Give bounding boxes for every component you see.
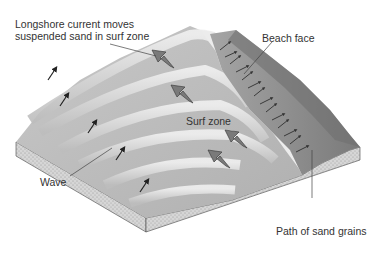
label-longshore-current-line2: suspended sand in surf zone — [15, 30, 149, 42]
label-surf-zone: Surf zone — [186, 115, 231, 127]
label-path-of-sand-grains: Path of sand grains — [276, 225, 366, 237]
beach-diagram: Longshore current moves suspended sand i… — [0, 0, 380, 257]
label-longshore-current-line1: Longshore current moves — [15, 18, 134, 30]
label-wave: Wave — [40, 176, 66, 188]
label-beach-face: Beach face — [262, 32, 315, 44]
